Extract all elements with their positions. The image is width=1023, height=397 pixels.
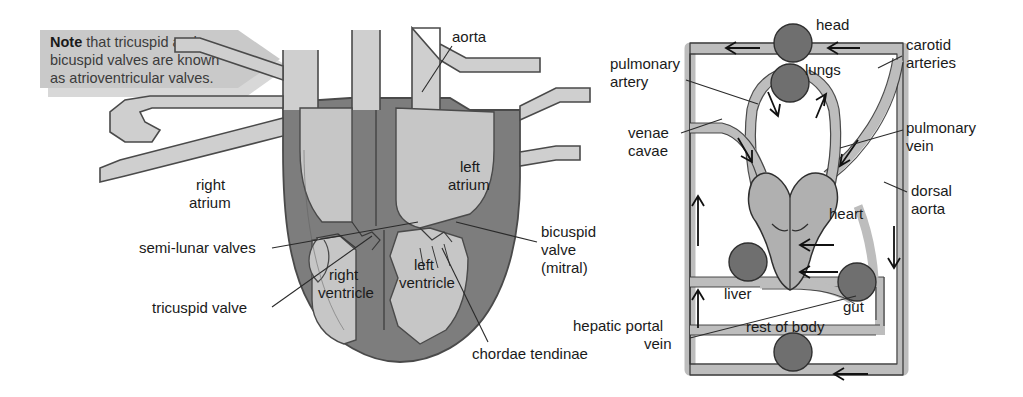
label-right-atrium-line1: right: [196, 176, 226, 193]
organ-node-rest-of-body: [774, 333, 812, 371]
label-right-ventricle-line1: right: [329, 266, 359, 283]
label-bicuspid-line2: valve: [541, 241, 576, 258]
label-bicuspid-line3: (mitral): [541, 259, 588, 276]
organ-node-liver: [729, 243, 767, 281]
organ-node-head: [774, 24, 812, 62]
svc-trunk: [283, 50, 318, 110]
label-head: head: [816, 16, 849, 33]
label-hepatic-portal-line1: hepatic portal: [573, 317, 663, 334]
note-bold-word: Note: [50, 34, 82, 50]
label-hepatic-portal-line2: vein: [644, 335, 672, 352]
organ-node-gut: [838, 263, 876, 301]
label-left-ventricle-line1: left: [414, 256, 435, 273]
biology-figure-heart-and-circulation: Note that tricuspid and bicuspid valves …: [0, 0, 1023, 397]
label-left-atrium-line2: atrium: [448, 176, 490, 193]
label-lungs: lungs: [805, 61, 841, 78]
label-pulmonary-vein-line2: vein: [906, 137, 934, 154]
note-line-2: bicuspid valves are known: [50, 52, 219, 68]
label-dorsal-aorta-line2: aorta: [911, 200, 946, 217]
label-venae-cavae-line1: venae: [628, 124, 669, 141]
label-liver: liver: [724, 285, 752, 302]
label-bicuspid-line1: bicuspid: [541, 223, 596, 240]
label-left-atrium-line1: left: [460, 158, 481, 175]
label-heart: heart: [829, 205, 864, 222]
note-line-3: as atrioventricular valves.: [50, 70, 214, 86]
label-semi-lunar-valves: semi-lunar valves: [139, 239, 256, 256]
label-left-ventricle-line2: ventricle: [399, 274, 455, 291]
pulmonary-trunk-fill: [352, 30, 380, 110]
label-pulmonary-artery-line1: pulmonary: [610, 55, 681, 72]
organ-node-lungs: [771, 64, 809, 102]
label-tricuspid-valve: tricuspid valve: [152, 299, 247, 316]
label-pulmonary-artery-line2: artery: [610, 73, 649, 90]
label-pulmonary-vein-line1: pulmonary: [906, 119, 977, 136]
label-venae-cavae-line2: cavae: [628, 142, 668, 159]
label-carotid-line2: arteries: [906, 54, 956, 71]
label-right-ventricle-line2: ventricle: [318, 284, 374, 301]
label-dorsal-aorta-line1: dorsal: [911, 182, 952, 199]
label-right-atrium-line2: atrium: [189, 194, 231, 211]
label-gut: gut: [843, 298, 865, 315]
label-chordae-tendinae: chordae tendinae: [472, 345, 588, 362]
label-carotid-line1: carotid: [906, 36, 951, 53]
label-aorta: aorta: [452, 28, 487, 45]
